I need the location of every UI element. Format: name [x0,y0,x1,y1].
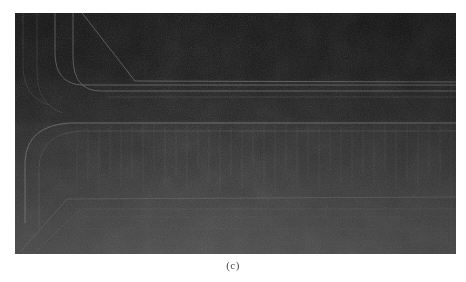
figure-panel-c: (c) [0,0,466,282]
micrograph-canvas [15,13,456,254]
figure-caption: (c) [0,258,466,272]
micrograph-image [15,13,456,254]
panel-vignette [15,13,456,254]
